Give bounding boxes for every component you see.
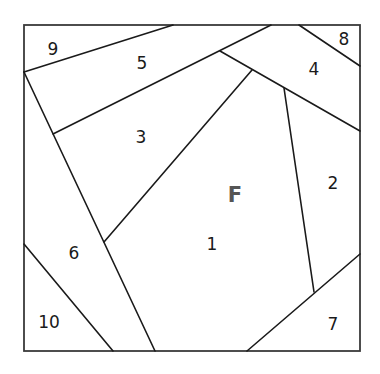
region-label-1: 1: [207, 234, 218, 254]
region-label-7: 7: [328, 314, 339, 334]
seam-1-2: [284, 88, 314, 292]
seam-6-left: [24, 72, 155, 351]
region-label-5: 5: [137, 53, 148, 73]
region-label-10: 10: [38, 312, 60, 332]
paper-piecing-diagram: 9 5 8 4 3 2 1 6 10 7 F: [0, 0, 380, 374]
seam-5-3: [53, 25, 271, 134]
region-label-4: 4: [309, 59, 320, 79]
seam-9-5: [24, 25, 173, 72]
seam-3-1: [104, 70, 252, 242]
region-label-8: 8: [339, 29, 350, 49]
seam-7: [247, 254, 360, 351]
region-label-2: 2: [328, 173, 339, 193]
region-label-3: 3: [136, 127, 147, 147]
seam-4-lower: [220, 51, 360, 131]
region-label-6: 6: [69, 243, 80, 263]
face-side-label: F: [228, 183, 242, 207]
region-label-9: 9: [48, 39, 59, 59]
